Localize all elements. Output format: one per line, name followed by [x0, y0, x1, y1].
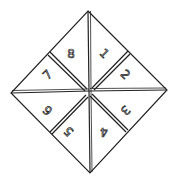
segment-label-4: 4 [100, 125, 108, 139]
segment-label-2: 2 [118, 67, 133, 82]
segment-label-3: 3 [118, 103, 133, 118]
segment-label-6: 6 [40, 103, 55, 118]
segment-label-1: 1 [97, 46, 112, 61]
segment-label-8: 8 [67, 47, 75, 61]
segment-label-5: 5 [61, 124, 76, 139]
segment-label-7: 7 [40, 67, 55, 82]
fortune-teller-diagram: 12345678 [0, 0, 173, 182]
